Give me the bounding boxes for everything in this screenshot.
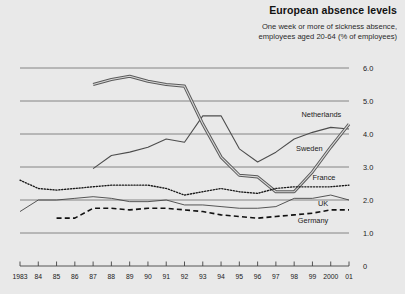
x-axis	[20, 262, 349, 267]
series-label-sweden: Sweden	[296, 144, 323, 153]
y-tick-label-3.0: 3.0	[363, 163, 373, 172]
series-line-netherlands	[93, 116, 349, 169]
chart-plot-area: 6.05.04.03.02.01.00 19838485868788899091…	[0, 0, 405, 294]
y-tick-label-4.0: 4.0	[363, 130, 373, 139]
x-tick-label-93: 93	[199, 273, 207, 280]
x-tick-label-94: 94	[217, 273, 225, 280]
x-tick-label-84: 84	[34, 273, 42, 280]
series-label-germany: Germany	[298, 216, 329, 225]
x-tick-label-97: 97	[272, 273, 280, 280]
y-axis-tick-labels: 6.05.04.03.02.01.00	[363, 64, 373, 271]
y-tick-label-0: 0	[363, 262, 367, 271]
x-tick-label-01: 01	[345, 273, 353, 280]
series-label-netherlands: Netherlands	[301, 110, 341, 119]
x-tick-label-89: 89	[126, 273, 134, 280]
x-tick-label-96: 96	[254, 273, 262, 280]
x-tick-label-98: 98	[290, 273, 298, 280]
y-tick-label-6.0: 6.0	[363, 64, 373, 73]
y-tick-label-1.0: 1.0	[363, 229, 373, 238]
series-labels: NetherlandsSwedenFranceUKGermany	[296, 110, 342, 225]
x-axis-tick-labels: 1983848586878889909192939495969798992000…	[12, 273, 353, 280]
chart-root: European absence levels One week or more…	[0, 0, 405, 294]
x-tick-label-87: 87	[89, 273, 97, 280]
x-tick-label-86: 86	[71, 273, 79, 280]
x-tick-label-88: 88	[108, 273, 116, 280]
x-tick-label-99: 99	[309, 273, 317, 280]
x-tick-label-1983: 1983	[12, 273, 27, 280]
series-label-france: France	[312, 173, 335, 182]
x-tick-label-92: 92	[181, 273, 189, 280]
x-tick-label-2000: 2000	[323, 273, 338, 280]
y-tick-label-5.0: 5.0	[363, 97, 373, 106]
line-chart-svg: 6.05.04.03.02.01.00 19838485868788899091…	[0, 0, 405, 294]
y-tick-label-2.0: 2.0	[363, 196, 373, 205]
series-line-uk	[20, 195, 349, 212]
x-tick-label-91: 91	[162, 273, 170, 280]
series-label-uk: UK	[318, 199, 328, 208]
x-tick-label-90: 90	[144, 273, 152, 280]
x-tick-label-85: 85	[53, 273, 61, 280]
x-tick-label-95: 95	[236, 273, 244, 280]
